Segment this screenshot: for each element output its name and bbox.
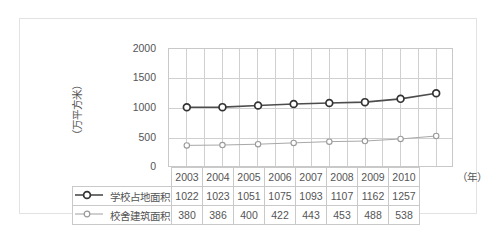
data-point-marker (327, 139, 332, 144)
table-row-header: 2003 2004 2005 2006 2007 2008 2009 2010 (73, 168, 420, 187)
table-year-2004: 2004 (203, 168, 234, 187)
data-point-marker (433, 133, 438, 138)
data-table: 2003 2004 2005 2006 2007 2008 2009 2010 … (72, 167, 420, 225)
table-cell: 422 (265, 206, 296, 225)
plot-area (168, 48, 453, 167)
table-cell: 1162 (358, 187, 389, 206)
table-cell: 386 (203, 206, 234, 225)
data-point-marker (398, 136, 403, 141)
y-axis-ticks: 2000 1500 1000 500 0 (96, 43, 162, 167)
table-row: 学校占地面积 1022 1023 1051 1075 1093 1107 116… (73, 187, 420, 206)
y-tick-2000: 2000 (133, 43, 156, 53)
table-row: 校舍建筑面积 380 386 400 422 443 453 488 538 (73, 206, 420, 225)
legend-item-series1: 学校占地面积 (73, 187, 172, 206)
table-cell: 453 (327, 206, 358, 225)
table-cell: 1022 (172, 187, 203, 206)
data-point-marker (220, 142, 225, 147)
table-year-2009: 2009 (358, 168, 389, 187)
data-point-marker (219, 104, 226, 111)
table-cell: 1023 (203, 187, 234, 206)
data-point-marker (184, 143, 189, 148)
y-axis-title: （万平方米） (66, 57, 86, 167)
data-point-marker (183, 104, 190, 111)
table-cell: 443 (296, 206, 327, 225)
data-point-marker (362, 99, 369, 106)
table-year-2005: 2005 (234, 168, 265, 187)
table-cell: 1075 (265, 187, 296, 206)
legend-label-series1: 学校占地面积 (110, 189, 170, 204)
x-axis-unit-label: （年） (457, 168, 487, 186)
data-point-marker (255, 102, 262, 109)
legend-marker-series2-icon (75, 208, 103, 222)
y-tick-1500: 1500 (133, 72, 156, 82)
table-cell: 1107 (327, 187, 358, 206)
legend-item-series2: 校舍建筑面积 (73, 206, 172, 225)
data-point-marker (255, 142, 260, 147)
chart-figure: （万平方米） 2000 1500 1000 500 0 (19, 18, 477, 214)
table-cell: 1051 (234, 187, 265, 206)
legend-marker-series1-icon (75, 189, 103, 203)
data-point-marker (290, 101, 297, 108)
table-year-2007: 2007 (296, 168, 327, 187)
table-year-2010: 2010 (389, 168, 420, 187)
series-lines (169, 49, 454, 168)
data-point-marker (433, 90, 440, 97)
data-point-marker (326, 100, 333, 107)
data-point-marker (397, 95, 404, 102)
y-axis-title-text: （万平方米） (69, 55, 84, 165)
table-year-2006: 2006 (265, 168, 296, 187)
table-cell: 1257 (389, 187, 420, 206)
table-cell: 538 (389, 206, 420, 225)
table-cell: 1093 (296, 187, 327, 206)
data-point-marker (291, 140, 296, 145)
y-tick-500: 500 (138, 132, 156, 142)
y-tick-1000: 1000 (133, 102, 156, 112)
table-corner-blank (73, 168, 172, 187)
data-point-marker (362, 138, 367, 143)
table-cell: 488 (358, 206, 389, 225)
table-cell: 400 (234, 206, 265, 225)
table-year-2008: 2008 (327, 168, 358, 187)
table-cell: 380 (172, 206, 203, 225)
legend-label-series2: 校舍建筑面积 (110, 208, 170, 223)
table-year-2003: 2003 (172, 168, 203, 187)
